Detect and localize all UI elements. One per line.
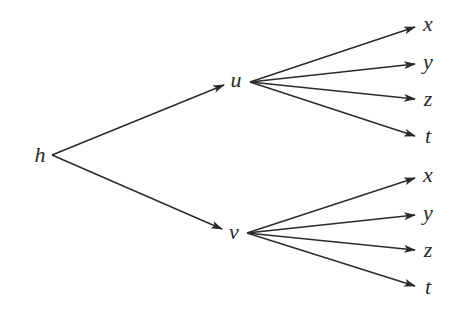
edge-u-y: [250, 64, 415, 82]
leaf-u-x: x: [423, 13, 433, 35]
leaf-v-z: z: [424, 239, 433, 261]
leaf-u-t: t: [425, 125, 431, 147]
edge-v-y: [247, 215, 415, 233]
leaf-v-x: x: [423, 164, 433, 186]
leaf-v-y: y: [423, 202, 433, 224]
edge-h-u: [52, 85, 224, 155]
edge-v-x: [247, 178, 415, 233]
edge-u-x: [250, 27, 415, 82]
edges-layer: [0, 0, 455, 316]
node-v: v: [229, 221, 239, 243]
leaf-u-z: z: [424, 88, 433, 110]
leaf-v-t: t: [425, 276, 431, 298]
edge-h-v: [52, 155, 222, 229]
leaf-u-y: y: [423, 51, 433, 73]
tree-diagram: h u v x y z t x y z t: [0, 0, 455, 316]
node-u: u: [231, 69, 242, 91]
node-h: h: [35, 144, 46, 166]
